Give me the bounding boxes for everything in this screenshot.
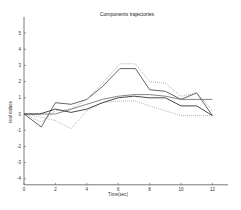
x-tick-label: 12 <box>210 187 216 192</box>
series-layer <box>24 64 212 129</box>
series-line-3 <box>24 101 212 129</box>
chart-figure: Components trajectories -4-3-2-101234502… <box>0 0 241 210</box>
y-tick-label: 2 <box>18 79 21 84</box>
chart-canvas: Components trajectories -4-3-2-101234502… <box>0 0 241 210</box>
y-tick-label: -3 <box>17 160 21 165</box>
y-axis-label: real values <box>8 100 13 123</box>
series-line-2 <box>24 64 212 122</box>
y-tick-label: 3 <box>18 63 21 68</box>
y-tick-label: 0 <box>18 112 21 117</box>
axes: -4-3-2-1012345024681012 <box>17 17 228 192</box>
x-tick-label: 10 <box>178 187 184 192</box>
x-tick-label: 8 <box>148 187 151 192</box>
y-tick-label: 5 <box>18 31 21 36</box>
y-tick-label: -4 <box>17 176 21 181</box>
y-tick-label: -2 <box>17 144 21 149</box>
y-tick-label: 1 <box>18 95 21 100</box>
x-axis-label: Time(sec) <box>108 192 128 197</box>
y-tick-label: 4 <box>18 47 21 52</box>
x-tick-label: 4 <box>86 187 89 192</box>
y-tick-label: -1 <box>17 128 21 133</box>
x-tick-label: 2 <box>54 187 57 192</box>
chart-title: Components trajectories <box>100 11 155 17</box>
x-tick-label: 0 <box>23 187 26 192</box>
